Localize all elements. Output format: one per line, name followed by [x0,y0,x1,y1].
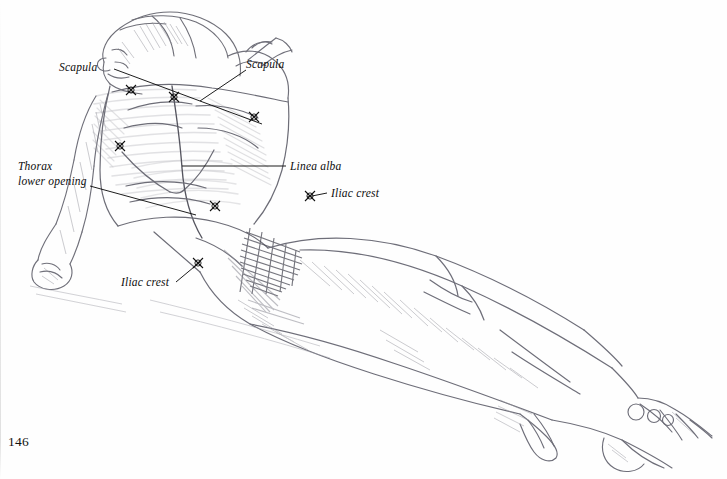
page-number: 146 [8,434,29,450]
leader-lines [90,69,327,282]
head-and-neck-outline [97,12,240,94]
book-page: Scapula Scapula Thorax lower opening Lin… [0,0,727,479]
label-thorax-line-1: Thorax [18,160,52,172]
legs-shading [238,260,538,388]
leader-scapula-left [114,69,262,124]
pencil-tone-layer [93,89,271,208]
label-iliac-crest-left: Iliac crest [121,275,169,289]
label-scapula-left: Scapula [59,60,97,74]
label-linea-alba: Linea alba [290,159,342,173]
leader-iliac-crest-right [307,193,327,197]
label-thorax-line-2: lower opening [18,175,87,187]
reclining-figure-drawing [0,0,727,479]
marker-scapula-right [249,112,259,122]
arm-shading [42,104,106,284]
ground-shading [30,286,330,358]
head-shading [118,22,188,64]
leader-thorax-lower-opening [90,186,196,215]
marker-thorax-left [115,141,125,151]
marker-sternum [169,92,179,102]
hip-shadow-crosshatch [240,228,302,296]
landmark-markers [115,85,315,268]
label-iliac-crest-right: Iliac crest [331,186,379,200]
feet-outline [520,398,712,471]
label-scapula-right: Scapula [246,57,284,71]
marker-scapula-left [126,85,136,95]
legs-outline [200,238,638,420]
label-thorax-lower-opening: Thorax lower opening [18,159,98,188]
marker-iliac-center [210,201,220,211]
leader-iliac-crest-left [176,262,200,282]
leader-scapula-right [200,70,246,101]
